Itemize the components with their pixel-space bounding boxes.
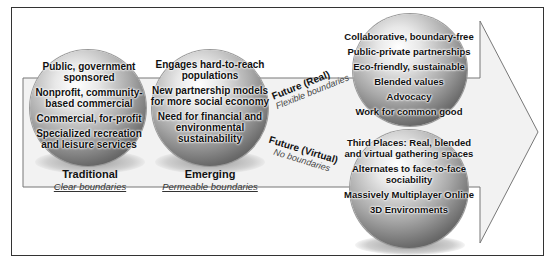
future-real-item: Eco-friendly, sustainable xyxy=(333,61,485,72)
emerging-item: New partnership models for more social e… xyxy=(148,85,272,107)
emerging-item: Need for financial and environmental sus… xyxy=(148,111,272,144)
future-real-item: Public-private partnerships xyxy=(333,46,485,57)
emerging-item: Engages hard-to-reach populations xyxy=(148,59,272,81)
future-virtual-items: Third Places: Real, blended and virtual … xyxy=(342,137,476,219)
traditional-item: Public, government sponsored xyxy=(30,61,148,83)
stage-subtitle-emerging: Permeable boundaries xyxy=(150,181,270,192)
future-virtual-item: Massively Multiplayer Online xyxy=(342,189,476,200)
future-virtual-item: Alternates to face-to-face sociability xyxy=(342,163,476,185)
traditional-item: Specialized recreation and leisure servi… xyxy=(30,128,148,150)
emerging-items: Engages hard-to-reach populations New pa… xyxy=(148,59,272,148)
future-real-item: Advocacy xyxy=(333,91,485,102)
traditional-item: Nonprofit, community-based commercial xyxy=(30,87,148,109)
future-virtual-item: Third Places: Real, blended and virtual … xyxy=(342,137,476,159)
future-real-item: Work for common good xyxy=(333,106,485,117)
stage-title-traditional: Traditional xyxy=(40,168,140,180)
future-virtual-item: 3D Environments xyxy=(342,204,476,215)
stage-subtitle-traditional: Clear boundaries xyxy=(40,181,140,192)
traditional-items: Public, government sponsored Nonprofit, … xyxy=(30,61,148,154)
stage-title-emerging: Emerging xyxy=(160,168,260,180)
future-real-item: Blended values xyxy=(333,76,485,87)
future-real-items: Collaborative, boundary-free Public-priv… xyxy=(333,31,485,121)
future-real-item: Collaborative, boundary-free xyxy=(333,31,485,42)
traditional-item: Commercial, for-profit xyxy=(30,113,148,124)
